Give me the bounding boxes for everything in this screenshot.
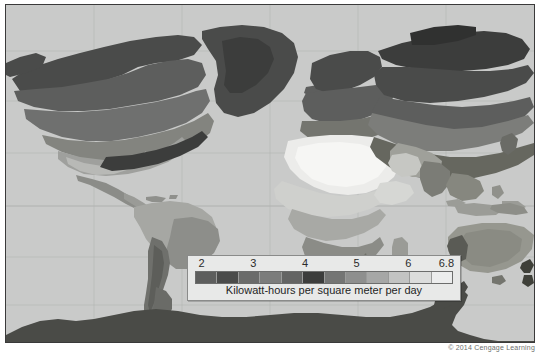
legend-swatch-7 <box>346 272 367 283</box>
legend-swatch-9 <box>389 272 410 283</box>
figure-root: 234566.8 Kilowatt-hours per square meter… <box>0 0 541 359</box>
legend-color-bar <box>195 271 453 284</box>
legend-swatch-1 <box>217 272 238 283</box>
copyright-notice: © 2014 Cengage Learning <box>448 344 535 351</box>
legend-caption: Kilowatt-hours per square meter per day <box>188 284 460 296</box>
legend-tick-3: 3 <box>250 257 256 269</box>
legend-tick-5: 5 <box>354 257 360 269</box>
legend-swatch-11 <box>432 272 452 283</box>
legend-tick-4: 4 <box>302 257 308 269</box>
legend-swatch-5 <box>303 272 324 283</box>
legend-swatch-2 <box>239 272 260 283</box>
world-map-frame: 234566.8 Kilowatt-hours per square meter… <box>5 4 535 343</box>
legend-swatch-6 <box>325 272 346 283</box>
legend-swatch-0 <box>196 272 217 283</box>
legend-swatch-3 <box>260 272 281 283</box>
legend-tick-labels: 234566.8 <box>188 256 460 271</box>
legend-swatch-4 <box>282 272 303 283</box>
legend-tick-6: 6 <box>405 257 411 269</box>
legend-tick-2: 2 <box>199 257 205 269</box>
legend-swatch-10 <box>410 272 431 283</box>
legend-swatch-8 <box>367 272 388 283</box>
legend-tick-6-8: 6.8 <box>439 257 454 269</box>
map-legend: 234566.8 Kilowatt-hours per square meter… <box>187 255 461 301</box>
